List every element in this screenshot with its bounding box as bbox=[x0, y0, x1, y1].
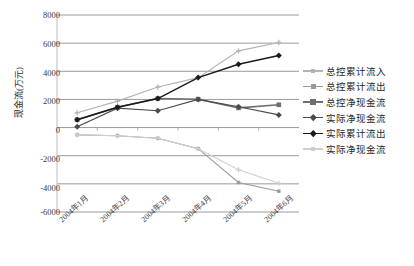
data-point-marker bbox=[236, 167, 241, 172]
legend-item-2[interactable]: 总控净现金流 bbox=[303, 94, 414, 110]
data-point-marker bbox=[276, 181, 281, 186]
data-point-marker bbox=[276, 53, 282, 59]
data-point-marker bbox=[195, 75, 201, 81]
y-tick-label: 8000 bbox=[26, 11, 60, 20]
legend-item-label: 实际净现金流 bbox=[326, 142, 386, 156]
series-line-5 bbox=[77, 135, 279, 183]
chart-legend: 总控累计流入 总控累计流出 总控净现金流 实际净现金流 实际累计流出 实际净现金… bbox=[303, 63, 414, 157]
data-point-marker bbox=[277, 102, 282, 107]
legend-item-label: 实际净现金流 bbox=[326, 111, 386, 125]
y-tick-label: 0 bbox=[26, 126, 60, 135]
legend-item-1[interactable]: 总控累计流出 bbox=[303, 79, 414, 95]
legend-marker-icon bbox=[303, 112, 323, 124]
data-point-marker bbox=[155, 108, 161, 114]
data-point-marker bbox=[276, 112, 282, 118]
data-point-marker bbox=[74, 124, 80, 130]
legend-item-label: 总控净现金流 bbox=[326, 95, 386, 109]
data-point-marker bbox=[277, 189, 280, 192]
data-point-marker bbox=[276, 40, 281, 45]
legend-marker-icon bbox=[303, 80, 323, 92]
data-point-marker bbox=[75, 110, 80, 115]
legend-item-3[interactable]: 实际净现金流 bbox=[303, 110, 414, 126]
y-tick-label: 6000 bbox=[26, 40, 60, 49]
y-tick-label: 4000 bbox=[26, 69, 60, 78]
series-line-4 bbox=[77, 56, 279, 120]
legend-item-label: 总控累计流入 bbox=[326, 64, 386, 78]
y-tick-label: -4000 bbox=[26, 184, 60, 193]
legend-item-0[interactable]: 总控累计流入 bbox=[303, 63, 414, 79]
data-point-marker bbox=[155, 84, 160, 89]
data-point-marker bbox=[75, 132, 80, 137]
legend-item-5[interactable]: 实际净现金流 bbox=[303, 141, 414, 157]
data-point-marker bbox=[236, 61, 242, 67]
legend-marker-icon bbox=[303, 127, 323, 139]
y-tick-label: 2000 bbox=[26, 97, 60, 106]
legend-marker-icon bbox=[303, 96, 323, 108]
legend-marker-icon bbox=[303, 143, 323, 155]
data-point-marker bbox=[115, 133, 120, 138]
legend-item-label: 实际累计流出 bbox=[326, 126, 386, 140]
cash-flow-line-chart: 现金流(万元) 8000 6000 4000 2000 0 -2000 -400… bbox=[0, 0, 414, 266]
legend-item-label: 总控累计流出 bbox=[326, 79, 386, 93]
data-point-marker bbox=[155, 136, 160, 141]
series-line-0 bbox=[77, 42, 279, 112]
legend-item-4[interactable]: 实际累计流出 bbox=[303, 125, 414, 141]
data-point-marker bbox=[237, 181, 240, 184]
legend-marker-icon bbox=[303, 65, 323, 77]
y-tick-label: -2000 bbox=[26, 155, 60, 164]
y-axis-tick-labels: 8000 6000 4000 2000 0 -2000 -4000 -6000 bbox=[20, 0, 60, 266]
